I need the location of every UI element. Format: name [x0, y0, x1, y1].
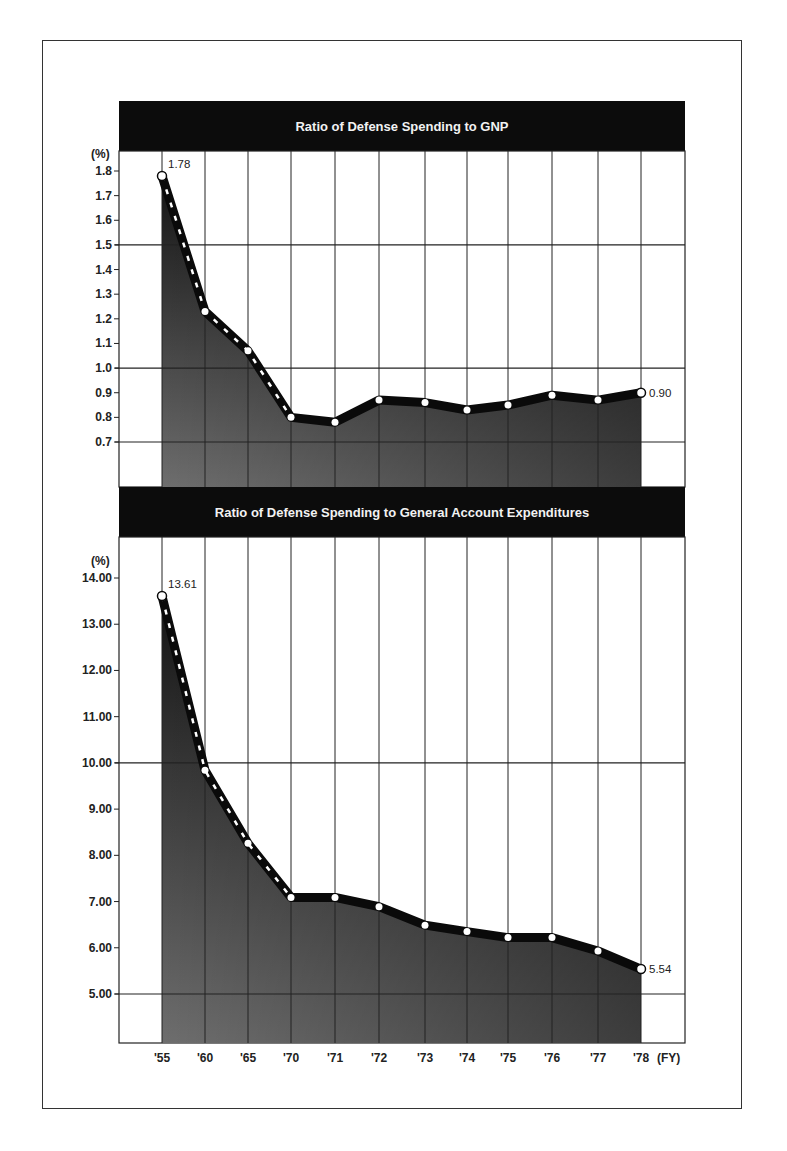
y-tick-label: 1.4 [95, 263, 112, 277]
data-value-label: 0.90 [649, 387, 671, 399]
y-tick-label: 10.00 [82, 756, 112, 770]
x-tick-label: '74 [459, 1051, 476, 1065]
data-point-marker [332, 894, 339, 901]
y-unit-label: (%) [91, 554, 110, 568]
data-value-label: 1.78 [168, 158, 190, 170]
data-point-marker [595, 948, 602, 955]
data-point-marker [376, 397, 383, 404]
y-tick-label: 1.5 [95, 238, 112, 252]
y-tick-label: 5.00 [89, 987, 113, 1001]
y-tick-label: 1.7 [95, 189, 112, 203]
y-tick-label: 13.00 [82, 617, 112, 631]
y-tick-label: 14.00 [82, 571, 112, 585]
x-tick-label: '76 [544, 1051, 561, 1065]
data-point-marker [595, 397, 602, 404]
y-tick-label: 0.9 [95, 386, 112, 400]
data-point-marker [245, 347, 252, 354]
y-tick-label: 1.0 [95, 361, 112, 375]
y-tick-label: 9.00 [89, 802, 113, 816]
x-tick-label: '55 [154, 1051, 171, 1065]
data-point-marker [505, 934, 512, 941]
y-unit-label: (%) [91, 147, 110, 161]
data-point-marker [158, 592, 167, 601]
plot-area: 1.81.71.61.51.41.31.21.11.00.90.80.7(%)1… [91, 147, 685, 487]
y-tick-label: 1.3 [95, 287, 112, 301]
x-tick-label: '72 [371, 1051, 388, 1065]
data-point-marker [288, 894, 295, 901]
y-tick-label: 0.7 [95, 435, 112, 449]
data-value-label: 5.54 [649, 963, 672, 975]
data-point-marker [245, 840, 252, 847]
x-axis-labels: '55'60'65'70'71'72'73'74'75'76'77'78(FY) [154, 1051, 680, 1065]
data-point-marker [376, 903, 383, 910]
data-point-marker [464, 406, 471, 413]
chart-general-account: Ratio of Defense Spending to General Acc… [82, 487, 685, 1043]
data-point-marker [505, 402, 512, 409]
y-tick-label: 0.8 [95, 410, 112, 424]
data-point-marker [332, 419, 339, 426]
y-tick-label: 1.6 [95, 213, 112, 227]
x-tick-label: '75 [500, 1051, 517, 1065]
x-tick-label: '71 [327, 1051, 344, 1065]
data-point-marker [422, 399, 429, 406]
chart-title: Ratio of Defense Spending to General Acc… [215, 505, 589, 520]
chart-gnp: Ratio of Defense Spending to GNP 1.81.71… [91, 101, 685, 487]
data-point-marker [158, 171, 167, 180]
y-tick-label: 1.1 [95, 336, 112, 350]
y-tick-label: 7.00 [89, 895, 113, 909]
x-tick-label: '78 [633, 1051, 650, 1065]
y-tick-label: 6.00 [89, 941, 113, 955]
y-tick-label: 1.8 [95, 164, 112, 178]
data-point-marker [549, 934, 556, 941]
data-point-marker [464, 928, 471, 935]
charts-canvas: Ratio of Defense Spending to GNP 1.81.71… [0, 0, 787, 1151]
y-tick-label: 8.00 [89, 848, 113, 862]
x-tick-label: '60 [197, 1051, 214, 1065]
data-value-label: 13.61 [168, 578, 197, 590]
data-point-marker [202, 767, 209, 774]
data-point-marker [637, 388, 646, 397]
data-point-marker [549, 392, 556, 399]
y-tick-label: 11.00 [83, 710, 113, 724]
x-axis-unit-label: (FY) [657, 1051, 680, 1065]
chart-title: Ratio of Defense Spending to GNP [295, 119, 508, 134]
x-tick-label: '65 [240, 1051, 257, 1065]
y-tick-label: 1.2 [95, 312, 112, 326]
x-tick-label: '70 [283, 1051, 300, 1065]
y-tick-label: 12.00 [82, 663, 112, 677]
data-point-marker [422, 922, 429, 929]
data-point-marker [202, 308, 209, 315]
plot-area: 14.0013.0012.0011.0010.009.008.007.006.0… [82, 537, 685, 1043]
data-point-marker [288, 414, 295, 421]
x-tick-label: '77 [590, 1051, 607, 1065]
data-point-marker [637, 965, 646, 974]
x-tick-label: '73 [417, 1051, 434, 1065]
